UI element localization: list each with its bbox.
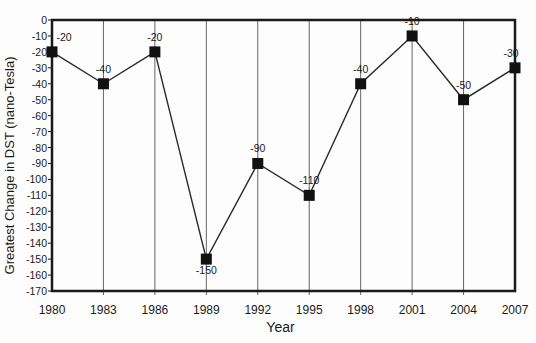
data-point-marker	[98, 78, 109, 89]
y-tick-label: -70	[32, 126, 47, 138]
data-label: -150	[196, 264, 217, 276]
x-tick-label: 2007	[502, 303, 529, 317]
x-tick-label: 2001	[399, 303, 426, 317]
x-tick-label: 1980	[39, 303, 66, 317]
data-point-marker	[355, 78, 366, 89]
y-tick-label: -130	[26, 221, 47, 233]
data-point-marker	[458, 94, 469, 105]
x-tick-label: 1992	[244, 303, 271, 317]
x-tick-label: 1983	[90, 303, 117, 317]
data-label: -90	[250, 142, 265, 154]
x-axis-label: Year	[266, 319, 295, 335]
y-tick-label: -150	[26, 253, 47, 265]
data-point-marker	[149, 46, 160, 57]
y-tick-label: -20	[32, 46, 47, 58]
y-tick-label: -170	[26, 285, 47, 297]
y-tick-label: -80	[32, 142, 47, 154]
data-point-marker	[304, 190, 315, 201]
x-tick-label: 1989	[193, 303, 220, 317]
data-point-marker	[510, 62, 521, 73]
data-series: -20-40-20-150-90-110-40-10-50-30	[47, 15, 521, 276]
y-tick-label: -110	[27, 189, 47, 201]
data-point-marker	[201, 254, 212, 265]
data-point-marker	[47, 46, 58, 57]
data-label: -110	[299, 174, 319, 186]
x-tick-label: 1998	[347, 303, 374, 317]
y-tick-label: -120	[26, 205, 47, 217]
x-axis: 1980198319861989199219951998200120042007	[39, 303, 529, 317]
y-tick-label: -140	[26, 237, 47, 249]
y-tick-label: 0	[41, 14, 47, 26]
y-axis-label: Greatest Change in DST (nano-Tesla)	[2, 57, 17, 275]
y-tick-label: -100	[26, 173, 47, 185]
y-tick-label: -40	[32, 78, 47, 90]
data-label: -20	[147, 31, 162, 43]
data-label: -30	[503, 47, 518, 59]
series-line	[52, 36, 515, 259]
x-tick-label: 1995	[296, 303, 323, 317]
plot-frame	[52, 20, 515, 291]
x-tick-label: 1986	[142, 303, 169, 317]
x-tick-label: 2004	[450, 303, 477, 317]
y-tick-label: -60	[32, 110, 47, 122]
data-label: -10	[405, 15, 420, 27]
y-tick-label: -10	[32, 30, 47, 42]
data-label: -50	[456, 79, 471, 91]
y-tick-label: -90	[32, 157, 47, 169]
y-tick-label: -160	[26, 269, 47, 281]
data-label: -20	[56, 31, 71, 43]
data-label: -40	[96, 63, 111, 75]
data-point-marker	[252, 158, 263, 169]
y-tick-label: -50	[32, 94, 47, 106]
data-point-marker	[407, 30, 418, 41]
y-tick-label: -30	[32, 62, 47, 74]
data-label: -40	[353, 63, 368, 75]
line-chart: 0-10-20-30-40-50-60-70-80-90-100-110-120…	[0, 0, 536, 343]
